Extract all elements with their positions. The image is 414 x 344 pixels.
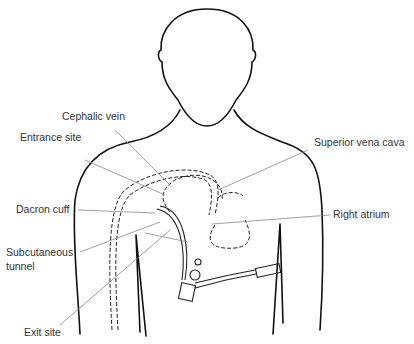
label-cephalic-vein: Cephalic vein [62,110,125,123]
body-outline-illustration [0,0,414,344]
label-subcutaneous: Subcutaneous [6,246,73,259]
label-dacron-cuff: Dacron cuff [16,203,70,216]
label-entrance-site: Entrance site [20,131,81,144]
label-right-atrium: Right atrium [333,208,390,221]
catheter-diagram: Cephalic vein Entrance site Superior ven… [0,0,414,344]
label-superior-vena-cava: Superior vena cava [314,136,404,149]
right-shoulder [234,110,323,330]
head-outline [158,9,255,126]
left-shoulder [74,110,180,334]
label-exit-site: Exit site [24,326,61,339]
label-tunnel: tunnel [6,260,35,273]
